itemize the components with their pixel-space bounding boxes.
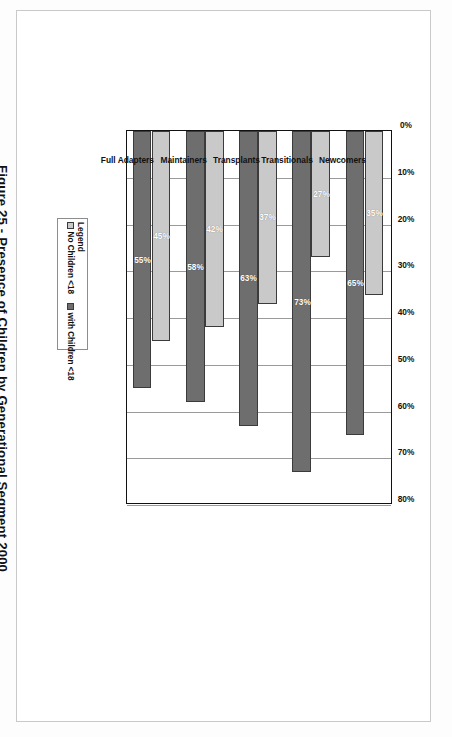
plot-area: 35%65%27%73%37%63%42%58%45%55% [126, 130, 392, 504]
axis-tick-label: 0% [394, 120, 418, 130]
gridline [127, 505, 391, 506]
legend-title: Legend [76, 222, 85, 346]
figure-caption: Figure 25 - Presence of Children by Gene… [0, 165, 13, 645]
legend-swatch-no-children [67, 222, 74, 229]
bar-value-label: 58% [184, 262, 208, 271]
legend-item: with Children <18 [66, 303, 75, 381]
axis-tick-label: 10% [394, 167, 418, 177]
bar-value-label: 45% [150, 232, 174, 241]
legend-swatch-with-children [67, 303, 74, 310]
bar-value-label: 42% [203, 225, 227, 234]
axis-tick-label: 70% [394, 447, 418, 457]
bar-value-label: 63% [237, 274, 261, 283]
legend-container: Legend No Children <18with Children <18 [57, 218, 88, 350]
gridline [127, 458, 391, 459]
bar-value-label: 73% [290, 297, 314, 306]
axis-tick-label: 40% [394, 307, 418, 317]
axis-tick-label: 20% [394, 214, 418, 224]
axis-tick-label: 60% [394, 401, 418, 411]
legend-item: No Children <18 [66, 222, 75, 294]
bar-value-label: 37% [256, 213, 280, 222]
axis-tick-label: 50% [394, 354, 418, 364]
legend-item-label: with Children <18 [66, 313, 75, 381]
axis-tick-label: 30% [394, 260, 418, 270]
legend-items: No Children <18with Children <18 [66, 222, 75, 346]
bar-value-label: 35% [362, 208, 386, 217]
bar-chart: 0%10%20%30%40%50%60%70%80% 35%65%27%73%3… [108, 86, 418, 541]
bar-value-label: 55% [131, 255, 155, 264]
scanned-page: Figure 25 - Presence of Children by Gene… [0, 0, 452, 737]
bar-value-label: 65% [343, 278, 367, 287]
category-label: Full Adapters [84, 155, 154, 165]
legend: Legend No Children <18with Children <18 [57, 218, 88, 350]
bar-value-label: 27% [309, 190, 333, 199]
axis-tick-label: 80% [394, 494, 418, 504]
legend-item-label: No Children <18 [66, 232, 75, 295]
